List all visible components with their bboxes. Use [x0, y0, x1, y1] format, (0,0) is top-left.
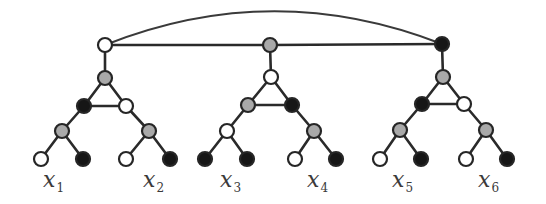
node-black — [415, 97, 429, 111]
node-black — [500, 152, 514, 166]
node-white — [119, 99, 133, 113]
node-black — [76, 152, 90, 166]
node-white — [459, 152, 473, 166]
node-gray — [436, 70, 450, 84]
node-black — [240, 152, 254, 166]
node-black — [198, 152, 212, 166]
node-white — [288, 152, 302, 166]
node-white — [119, 152, 133, 166]
node-gray — [241, 98, 255, 112]
node-black — [285, 98, 299, 112]
node-gray — [98, 71, 112, 85]
node-white — [264, 70, 278, 84]
node-gray — [142, 124, 156, 138]
node-white — [457, 97, 471, 111]
leaf-label-x4: x4 — [307, 167, 328, 195]
node-black — [329, 152, 343, 166]
node-black — [163, 152, 177, 166]
edge — [270, 44, 442, 45]
node-white — [98, 38, 112, 52]
leaf-label-x6: x6 — [478, 167, 499, 195]
node-gray — [393, 123, 407, 137]
node-black — [414, 152, 428, 166]
edges — [41, 44, 507, 159]
leaf-labels: x1x2x3x4x5x6 — [43, 167, 499, 195]
leaf-label-x2: x2 — [143, 167, 164, 195]
node-white — [34, 152, 48, 166]
node-gray — [307, 124, 321, 138]
tree-diagram: x1x2x3x4x5x6 — [0, 0, 546, 204]
node-gray — [263, 38, 277, 52]
leaf-label-x1: x1 — [43, 167, 64, 195]
node-black — [435, 37, 449, 51]
leaf-label-x3: x3 — [220, 167, 241, 195]
node-gray — [479, 123, 493, 137]
node-white — [220, 124, 234, 138]
node-gray — [55, 124, 69, 138]
node-black — [77, 99, 91, 113]
node-white — [373, 152, 387, 166]
leaf-label-x5: x5 — [392, 167, 413, 195]
